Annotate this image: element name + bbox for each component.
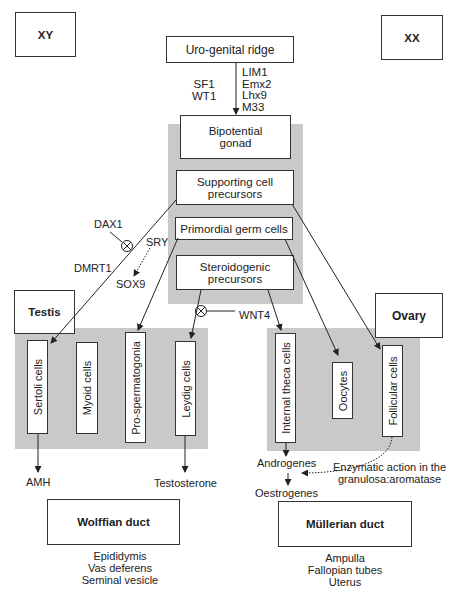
aromatase-arrow <box>302 437 392 473</box>
sry-to-sox9-arrow <box>134 248 150 276</box>
germ-to-oocytes-arrow <box>285 239 338 355</box>
steroidogenic-to-theca-arrow <box>268 290 281 330</box>
germ-to-prospermatogonia-arrow <box>138 238 178 330</box>
dax1-line <box>110 232 122 242</box>
supporting-to-sertoli-arrow <box>51 200 176 343</box>
supporting-to-follicular-arrow <box>292 204 380 349</box>
connector-overlay <box>0 0 459 594</box>
